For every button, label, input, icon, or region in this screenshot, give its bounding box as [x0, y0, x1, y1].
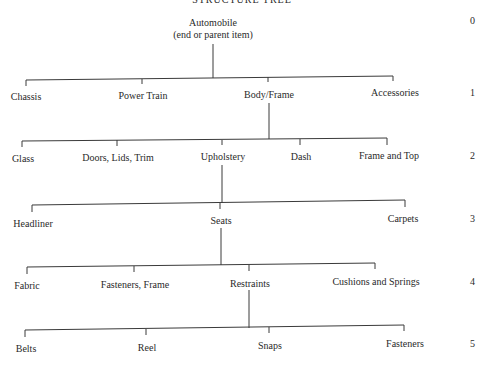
level-number-4: 4	[470, 276, 475, 287]
level-number-2: 2	[470, 150, 475, 161]
node-cushions-and-springs: Cushions and Springs	[332, 276, 419, 288]
node-dash: Dash	[291, 151, 312, 163]
level-number-1: 1	[470, 87, 475, 98]
node-upholstery: Upholstery	[201, 151, 245, 163]
node-fasteners: Fasteners	[386, 338, 424, 350]
level-number-3: 3	[470, 213, 475, 224]
node-accessories: Accessories	[371, 87, 419, 99]
root-node-label: Automobile	[173, 17, 253, 29]
level-number-0: 0	[470, 15, 475, 26]
node-carpets: Carpets	[388, 213, 419, 225]
tree-connectors	[0, 0, 491, 365]
node-glass: Glass	[12, 153, 34, 165]
node-power-train: Power Train	[118, 90, 167, 102]
node-seats: Seats	[210, 215, 231, 227]
node-headliner: Headliner	[13, 218, 52, 230]
root-node-sublabel: (end or parent item)	[173, 29, 253, 41]
node-doors-lids-trim: Doors, Lids, Trim	[82, 152, 154, 164]
node-fabric: Fabric	[14, 280, 40, 292]
node-snaps: Snaps	[258, 340, 282, 352]
node-chassis: Chassis	[11, 91, 42, 103]
node-belts: Belts	[16, 343, 37, 355]
node-restraints: Restraints	[230, 278, 270, 290]
level-number-5: 5	[470, 338, 475, 349]
root-node-automobile: Automobile (end or parent item)	[173, 17, 253, 41]
node-fasteners-frame: Fasteners, Frame	[101, 279, 169, 291]
node-body-frame: Body/Frame	[244, 89, 294, 101]
node-reel: Reel	[138, 342, 156, 354]
node-frame-and-top: Frame and Top	[359, 150, 419, 162]
